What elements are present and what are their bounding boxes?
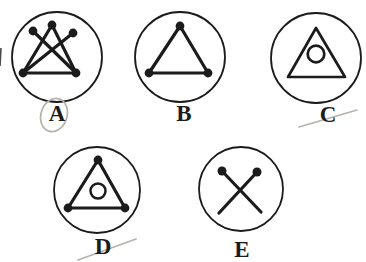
option-b-line [149, 26, 180, 73]
option-c-group: C [271, 13, 361, 127]
scan-edge-artifact [0, 48, 1, 66]
option-b-dot [204, 69, 213, 78]
option-b-dot [176, 22, 185, 31]
option-a-dot [72, 69, 81, 78]
option-d-group: D [54, 147, 140, 260]
option-d-dot [121, 204, 130, 213]
option-a-dot [29, 27, 38, 36]
option-e-group: E [199, 147, 283, 262]
option-a-line [23, 25, 52, 73]
option-a-group: A [12, 12, 102, 135]
option-e-line [219, 172, 257, 213]
option-b-dot [145, 69, 154, 78]
option-d-inner-circle [91, 184, 106, 199]
option-e-dot [218, 167, 227, 176]
option-a-dot [48, 21, 57, 30]
option-a-dot [69, 29, 78, 38]
option-a-label[interactable]: A [49, 101, 66, 126]
option-d-dot [94, 156, 103, 165]
option-c-inner-circle [308, 46, 325, 63]
option-d-dot [64, 204, 73, 213]
puzzle-figure-canvas: ABCDE [0, 0, 366, 262]
option-d-label[interactable]: D [95, 234, 112, 259]
option-e-dot [253, 168, 262, 177]
scanned-puzzle-page: ABCDE [0, 0, 366, 262]
option-b-label[interactable]: B [176, 101, 191, 126]
option-e-line [222, 171, 261, 212]
option-a-dot [19, 69, 28, 78]
option-c-label[interactable]: C [320, 102, 337, 127]
option-b-line [180, 26, 208, 73]
option-b-group: B [135, 12, 225, 126]
option-c-circle[interactable] [271, 13, 361, 103]
option-e-label[interactable]: E [234, 237, 249, 262]
option-c-triangle [288, 28, 345, 77]
option-a-circle[interactable] [12, 12, 102, 102]
